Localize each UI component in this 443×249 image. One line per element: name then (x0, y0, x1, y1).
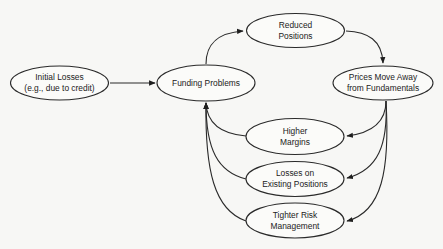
node-label-line: Positions (279, 31, 313, 41)
node-losses-existing-positions: Losses on Existing Positions (246, 162, 344, 197)
node-tighter-risk-management: Tighter Risk Management (246, 203, 344, 238)
node-label-line: Margins (280, 137, 310, 147)
node-label-line: Tighter Risk (273, 210, 318, 220)
edge-losses-existing-to-funding (206, 103, 246, 179)
edge-prices-to-higher-margins (347, 101, 386, 136)
node-higher-margins: Higher Margins (246, 119, 344, 155)
edge-higher-margins-to-funding (206, 103, 246, 136)
node-initial-losses: Initial Losses (e.g., due to credit) (11, 66, 109, 100)
node-funding-problems: Funding Problems (157, 65, 255, 101)
edge-prices-to-losses-existing (347, 101, 386, 178)
node-label-line: Higher (283, 126, 308, 136)
liquidity-spiral-diagram: Initial Losses (e.g., due to credit) Fun… (0, 0, 443, 249)
edge-funding-problems-to-reduced-positions (206, 31, 243, 64)
node-label-line: Existing Positions (262, 179, 328, 189)
node-label-line: Prices Move Away (349, 72, 418, 82)
node-label-line: Funding Problems (172, 78, 240, 88)
edge-reduced-positions-to-prices-move-away (346, 31, 383, 63)
node-reduced-positions: Reduced Positions (247, 14, 345, 48)
node-prices-move-away: Prices Move Away from Fundamentals (333, 66, 433, 100)
node-label-line: (e.g., due to credit) (24, 83, 95, 93)
node-label-line: Losses on (276, 168, 315, 178)
node-label-line: Reduced (279, 20, 313, 30)
node-label-line: from Fundamentals (347, 83, 419, 93)
node-label-line: Initial Losses (35, 72, 83, 82)
node-label-line: Management (271, 221, 321, 231)
